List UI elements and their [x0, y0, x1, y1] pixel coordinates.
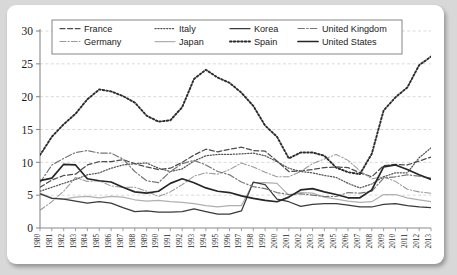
y-axis-label-10: 10	[22, 157, 34, 169]
x-axis-label-1991: 1991	[164, 234, 172, 249]
x-axis-label-1997: 1997	[235, 234, 243, 249]
x-axis-label-2011: 2011	[401, 234, 409, 249]
x-axis-label-1985: 1985	[93, 234, 101, 249]
y-axis-label-0: 0	[27, 222, 33, 234]
x-axis-label-1990: 1990	[152, 234, 160, 249]
x-axis-label-2007: 2007	[354, 234, 362, 249]
x-axis-label-2005: 2005	[330, 234, 338, 249]
gridlines	[40, 31, 431, 195]
legend-label-germany: Germany	[84, 37, 122, 47]
chart-screenshot: 0510152025301980198119821983198419851986…	[0, 0, 457, 275]
x-axis-label-2013: 2013	[425, 234, 433, 249]
legend-label-spain: Spain	[254, 37, 277, 47]
axes	[36, 29, 431, 231]
x-axis-label-1984: 1984	[81, 234, 89, 249]
x-axis-label-1994: 1994	[200, 234, 208, 249]
x-axis-label-1986: 1986	[105, 234, 113, 249]
x-axis-label-1996: 1996	[224, 234, 232, 249]
x-axis-label-2001: 2001	[283, 234, 291, 249]
x-axis-label-1999: 1999	[259, 234, 267, 249]
x-axis-label-1987: 1987	[117, 234, 125, 249]
legend-label-korea: Korea	[254, 24, 279, 34]
y-axis-label-15: 15	[22, 124, 34, 136]
x-axis-label-1995: 1995	[212, 234, 220, 249]
x-axis-label-2006: 2006	[342, 234, 350, 249]
x-axis-label-1983: 1983	[70, 234, 78, 249]
chart-canvas: 0510152025301980198119821983198419851986…	[0, 0, 457, 275]
line-chart: 0510152025301980198119821983198419851986…	[0, 0, 457, 275]
legend-label-france: France	[84, 24, 112, 34]
x-axis-label-1988: 1988	[129, 234, 137, 249]
y-axis-label-5: 5	[27, 189, 33, 201]
series-line-united-states	[40, 164, 431, 201]
x-axis-label-2009: 2009	[378, 234, 386, 249]
x-axis-label-2012: 2012	[413, 234, 421, 249]
x-axis-label-2000: 2000	[271, 234, 279, 249]
series-group	[40, 57, 431, 215]
y-axis-label-30: 30	[22, 25, 34, 37]
y-axis-label-25: 25	[22, 58, 34, 70]
x-axis-label-2002: 2002	[295, 234, 303, 249]
y-axis-label-20: 20	[22, 91, 34, 103]
x-axis-label-1989: 1989	[141, 234, 149, 249]
x-axis-label-2004: 2004	[318, 234, 326, 249]
x-axis-label-1993: 1993	[188, 234, 196, 249]
x-axis-label-1982: 1982	[58, 234, 66, 249]
legend: FranceItalyKoreaUnited KingdomGermanyJap…	[52, 20, 402, 54]
x-axis-label-2003: 2003	[307, 234, 315, 249]
x-axis-label-1992: 1992	[176, 234, 184, 249]
legend-label-united-states: United States	[322, 37, 377, 47]
x-axis-label-1998: 1998	[247, 234, 255, 249]
x-axis-label-1981: 1981	[46, 234, 54, 249]
y-axis-labels: 051015202530	[22, 25, 34, 234]
x-axis-label-2008: 2008	[366, 234, 374, 249]
x-axis-label-2010: 2010	[389, 234, 397, 249]
legend-label-italy: Italy	[179, 24, 196, 34]
legend-label-japan: Japan	[179, 37, 204, 47]
series-line-spain	[40, 57, 431, 175]
legend-label-united-kingdom: United Kingdom	[322, 24, 387, 34]
x-axis-label-1980: 1980	[34, 234, 42, 249]
x-axis-labels: 1980198119821983198419851986198719881989…	[34, 234, 433, 249]
